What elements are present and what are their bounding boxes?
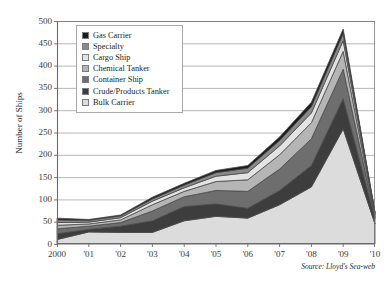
legend-item[interactable]: Cargo Ship bbox=[82, 52, 177, 63]
legend-item-label: Gas Carrier bbox=[93, 31, 131, 40]
legend-swatch-icon bbox=[82, 43, 89, 50]
y-tick-label: 100 bbox=[22, 195, 52, 204]
chart-figure: Number of Ships 500450400350300250200150… bbox=[0, 0, 389, 291]
y-tick-label: 300 bbox=[22, 106, 52, 115]
legend-item-label: Container Ship bbox=[93, 75, 143, 84]
legend-swatch-icon bbox=[82, 32, 89, 39]
legend-item[interactable]: Specialty bbox=[82, 41, 177, 52]
x-tick-label: '10 bbox=[355, 250, 389, 259]
y-tick-label: 500 bbox=[22, 17, 52, 26]
legend-item-label: Chemical Tanker bbox=[93, 64, 150, 73]
legend-swatch-icon bbox=[82, 88, 89, 95]
y-tick-label: 400 bbox=[22, 61, 52, 70]
y-tick-label: 450 bbox=[22, 39, 52, 48]
y-tick-label: 150 bbox=[22, 173, 52, 182]
legend-item-label: Bulk Carrier bbox=[93, 98, 135, 107]
y-tick-label: 250 bbox=[22, 128, 52, 137]
legend-item-label: Specialty bbox=[93, 42, 124, 51]
legend-swatch-icon bbox=[82, 65, 89, 72]
y-tick-label: 0 bbox=[22, 240, 52, 249]
y-tick-label: 350 bbox=[22, 83, 52, 92]
legend-swatch-icon bbox=[82, 54, 89, 61]
legend-item[interactable]: Gas Carrier bbox=[82, 30, 177, 41]
legend-item[interactable]: Chemical Tanker bbox=[82, 63, 177, 74]
legend-item[interactable]: Container Ship bbox=[82, 74, 177, 85]
y-tick-label: 200 bbox=[22, 150, 52, 159]
y-axis-title: Number of Ships bbox=[14, 63, 24, 183]
legend-item[interactable]: Bulk Carrier bbox=[82, 97, 177, 108]
legend-swatch-icon bbox=[82, 99, 89, 106]
legend-item-label: Crude/Products Tanker bbox=[93, 87, 169, 96]
legend-swatch-icon bbox=[82, 76, 89, 83]
legend-item-label: Cargo Ship bbox=[93, 53, 130, 62]
legend-item[interactable]: Crude/Products Tanker bbox=[82, 85, 177, 96]
y-tick-label: 50 bbox=[22, 217, 52, 226]
source-note: Source: Lloyd's Sea-web bbox=[301, 262, 375, 271]
chart-legend: Gas CarrierSpecialtyCargo ShipChemical T… bbox=[76, 25, 183, 113]
